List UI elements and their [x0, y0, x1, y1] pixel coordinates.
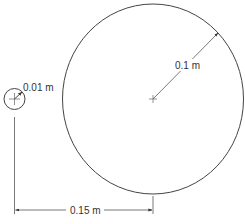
two-circles-diagram: 0.1 m 0.01 m 0.15 m — [0, 0, 245, 224]
center-distance-dimension: 0.15 m — [15, 117, 154, 216]
small-circle: 0.01 m — [4, 82, 54, 110]
large-radius-label: 0.1 m — [175, 60, 200, 71]
large-circle: 0.1 m — [63, 4, 244, 194]
small-radius-label: 0.01 m — [23, 82, 54, 93]
small-radius-arrow — [15, 92, 23, 99]
center-distance-label: 0.15 m — [70, 205, 101, 216]
